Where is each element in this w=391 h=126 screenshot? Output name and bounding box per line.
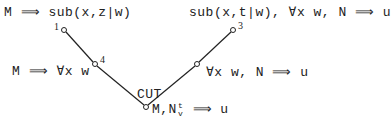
node-1-circle [62,28,67,33]
node-3-label: 3 [238,21,243,31]
node-cut-circle [144,105,149,110]
cut-formula-main: M,N [152,102,177,117]
cut-formula-sup: t [178,102,183,109]
node-4-label: 4 [100,55,105,65]
node-r-circle [195,62,200,67]
node-1-label: 1 [54,22,59,32]
node-4-formula: M ⟹ ∀x w [12,65,90,79]
edge-3-r [199,32,231,62]
edge-1-4 [66,32,93,62]
node-3-circle [231,28,236,33]
node-cut-formula: M,Ntv ⟹ u [152,103,229,117]
node-3-formula: sub(x,t|w), ∀x w, N ⟹ u [189,6,391,20]
node-r-formula: ∀x w, N ⟹ u [206,66,309,80]
cut-formula-tail: ⟹ u [184,102,228,117]
node-4-circle [93,62,98,67]
cut-formula-sub: v [178,110,183,117]
node-1-formula: M ⟹ sub(x,z|w) [4,6,131,20]
rule-label-cut: CUT [137,88,162,102]
